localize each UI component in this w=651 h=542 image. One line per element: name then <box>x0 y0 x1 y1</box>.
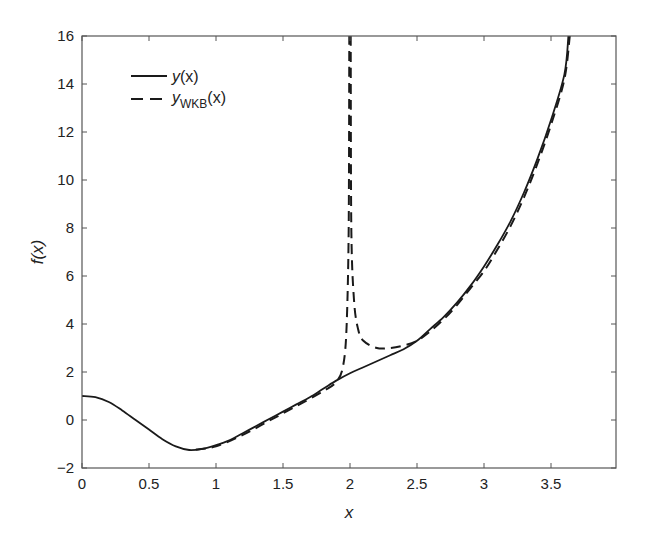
x-tick-label: 2 <box>346 475 354 492</box>
x-tick-label: 1.5 <box>273 475 294 492</box>
y-tick-label: 2 <box>66 363 74 380</box>
chart: 00.511.522.533.5 −20246810121416 x f(x) … <box>0 0 651 542</box>
x-tick-label: 0 <box>78 475 86 492</box>
x-tick-label: 1 <box>212 475 220 492</box>
series-ywkb-line <box>351 36 570 349</box>
y-tick-label: 0 <box>66 411 74 428</box>
y-tick-label: 10 <box>57 171 74 188</box>
legend-label-y: y(x) <box>171 68 199 85</box>
x-tick-label: 3.5 <box>541 475 562 492</box>
y-tick-label: 14 <box>57 75 74 92</box>
y-axis-label: f(x) <box>28 240 47 265</box>
x-tick-label: 0.5 <box>139 475 160 492</box>
y-tick-label: 8 <box>66 219 74 236</box>
x-axis-label: x <box>344 503 354 522</box>
x-tick-label: 3 <box>480 475 488 492</box>
legend: y(x) yWKB(x) <box>131 68 226 111</box>
y-tick-labels: −20246810121416 <box>57 27 74 476</box>
y-tick-label: 16 <box>57 27 74 44</box>
y-tick-label: 12 <box>57 123 74 140</box>
legend-label-ywkb: yWKB(x) <box>171 89 226 111</box>
y-tick-label: 6 <box>66 267 74 284</box>
x-tick-labels: 00.511.522.533.5 <box>78 475 562 492</box>
x-tick-label: 2.5 <box>407 475 428 492</box>
y-tick-label: 4 <box>66 315 74 332</box>
y-tick-label: −2 <box>57 459 74 476</box>
